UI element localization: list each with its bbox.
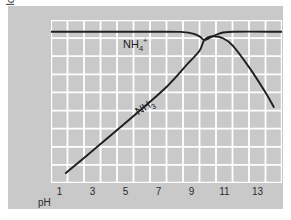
chart-card: log10-Concentration NH4+ NH3 135791113 p…	[8, 6, 283, 209]
x-tick-label: 9	[189, 186, 195, 197]
y-axis-label-base: log	[4, 0, 16, 6]
x-tick-label: 5	[123, 186, 129, 197]
x-tick-label: 7	[156, 186, 162, 197]
x-tick-label: 13	[252, 186, 263, 197]
x-tick-label: 3	[90, 186, 96, 197]
x-axis-label: pH	[38, 197, 51, 208]
series-label-nh4: NH4+	[123, 36, 147, 53]
x-tick-label: 1	[57, 186, 63, 197]
plot-area: NH4+ NH3	[51, 20, 282, 183]
plot-svg	[51, 20, 282, 183]
x-tick-label: 11	[219, 186, 229, 197]
chart-figure: log10-Concentration NH4+ NH3 135791113 p…	[0, 0, 291, 220]
y-axis-label: log10-Concentration	[4, 0, 18, 34]
